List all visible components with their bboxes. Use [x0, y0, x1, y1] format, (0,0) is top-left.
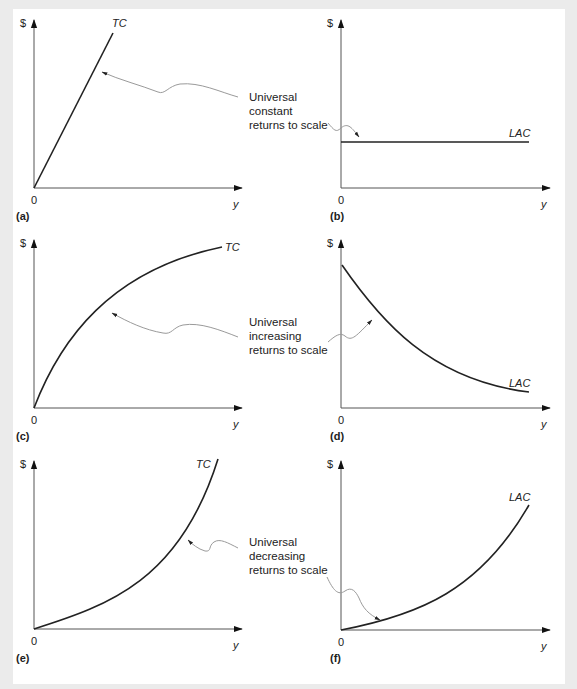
annotation-decreasing: Universal decreasing returns to scale — [249, 536, 328, 576]
lac-curve — [341, 505, 529, 630]
leader-arrow — [112, 313, 238, 337]
y-axis-label: $ — [327, 458, 333, 470]
panel-tag: (b) — [330, 210, 344, 222]
annotation-line: returns to scale — [249, 344, 328, 356]
annotation-line: returns to scale — [249, 564, 328, 576]
annotation-constant: Universal constant returns to scale — [249, 91, 328, 131]
leader-arrow — [328, 123, 359, 137]
leader-arrow — [327, 577, 380, 620]
curve-label: TC — [225, 241, 240, 253]
curve-label: TC — [112, 17, 127, 29]
panel-tag: (e) — [16, 652, 30, 664]
origin-label: 0 — [31, 635, 37, 647]
panel-a: $ 0 y (a) TC — [16, 17, 242, 222]
leader-arrow — [328, 320, 372, 342]
annotation-line: constant — [249, 105, 293, 117]
origin-label: 0 — [338, 194, 344, 206]
curve-label: LAC — [509, 377, 530, 389]
panel-f: $ 0 y (f) LAC — [327, 458, 550, 664]
y-axis-label: $ — [327, 17, 333, 29]
lac-curve — [342, 265, 529, 392]
panel-tag: (d) — [330, 430, 344, 442]
annotation-increasing: Universal increasing returns to scale — [249, 316, 328, 356]
y-axis-label: $ — [20, 458, 26, 470]
annotation-line: Universal — [249, 536, 297, 548]
tc-curve — [34, 247, 222, 408]
y-axis-label: $ — [20, 17, 26, 29]
curve-label: LAC — [509, 491, 530, 503]
panel-c: $ 0 y (c) TC — [16, 237, 242, 442]
annotation-line: returns to scale — [249, 119, 328, 131]
y-axis-label: $ — [327, 237, 333, 249]
x-axis-label: y — [540, 198, 548, 210]
x-axis-label: y — [232, 198, 240, 210]
panel-e: $ 0 y (e) TC — [16, 458, 242, 664]
origin-label: 0 — [338, 414, 344, 426]
returns-to-scale-figure: $ 0 y (a) TC Universal constant returns … — [0, 0, 577, 689]
panel-tag: (a) — [16, 210, 30, 222]
annotation-line: decreasing — [249, 550, 305, 562]
panel-d: $ 0 y (d) LAC — [327, 237, 550, 442]
x-axis-label: y — [540, 418, 548, 430]
origin-label: 0 — [31, 194, 37, 206]
x-axis-label: y — [232, 418, 240, 430]
x-axis-label: y — [540, 640, 548, 652]
x-axis-label: y — [232, 639, 240, 651]
origin-label: 0 — [31, 414, 37, 426]
tc-curve — [34, 459, 218, 629]
annotation-line: Universal — [249, 316, 297, 328]
panel-tag: (f) — [330, 652, 341, 664]
leader-arrow — [188, 540, 238, 551]
y-axis-label: $ — [20, 237, 26, 249]
leader-arrow — [102, 72, 238, 97]
curve-label: TC — [196, 458, 211, 470]
panel-tag: (c) — [16, 430, 30, 442]
annotation-line: Universal — [249, 91, 297, 103]
annotation-line: increasing — [249, 330, 301, 342]
tc-curve — [34, 33, 113, 188]
origin-label: 0 — [338, 636, 344, 648]
panel-b: $ 0 y (b) LAC — [327, 17, 550, 222]
curve-label: LAC — [509, 127, 530, 139]
